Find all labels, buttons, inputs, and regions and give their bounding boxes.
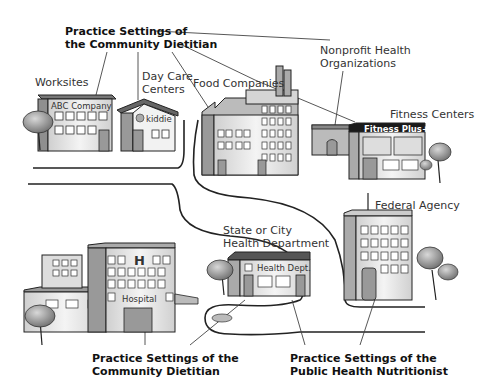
bottom-left-callout-label: Practice Settings of the Community Dieti… — [92, 352, 239, 378]
nonprofit-label: Nonprofit Health Organizations — [320, 44, 411, 70]
day-care-line1: Day Care — [142, 70, 193, 83]
top-callout-line2: the Community Dietitian — [65, 38, 217, 51]
nonprofit-building — [312, 125, 352, 155]
nonprofit-line2: Organizations — [320, 57, 411, 70]
fitness-centers-label: Fitness Centers — [390, 108, 474, 121]
worksites-label: Worksites — [35, 76, 88, 89]
illustration-scene — [0, 0, 485, 390]
state-city-line1: State or City — [223, 224, 329, 237]
day-care-line2: Centers — [142, 83, 193, 96]
hospital-sign: Hospital — [122, 293, 157, 306]
abc-company-sign: ABC Company — [51, 100, 112, 113]
hospital-h-sign: H — [134, 254, 145, 267]
bottom-right-callout-label: Practice Settings of the Public Health N… — [290, 352, 448, 378]
state-city-line2: Health Department — [223, 237, 329, 250]
federal-agency-label: Federal Agency — [375, 199, 460, 212]
bottom-left-line2: Community Dietitian — [92, 365, 239, 378]
bottom-right-line1: Practice Settings of the — [290, 352, 448, 365]
shrub — [212, 314, 232, 322]
tree — [417, 247, 458, 300]
community-dietitian-diagram: Practice Settings of the Community Dieti… — [0, 0, 485, 390]
fitness-plus-sign: Fitness Plus+ — [364, 123, 429, 136]
health-dept-sign: Health Dept. — [257, 262, 311, 275]
kiddie-sign: kiddie — [146, 113, 172, 126]
day-care-label: Day Care Centers — [142, 70, 193, 96]
nonprofit-line1: Nonprofit Health — [320, 44, 411, 57]
bottom-left-line1: Practice Settings of the — [92, 352, 239, 365]
top-callout-line1: Practice Settings of — [65, 25, 217, 38]
bottom-right-line2: Public Health Nutritionist — [290, 365, 448, 378]
food-companies-label: Food Companies — [193, 77, 284, 90]
state-city-label: State or City Health Department — [223, 224, 329, 250]
top-callout-label: Practice Settings of the Community Dieti… — [65, 25, 217, 51]
